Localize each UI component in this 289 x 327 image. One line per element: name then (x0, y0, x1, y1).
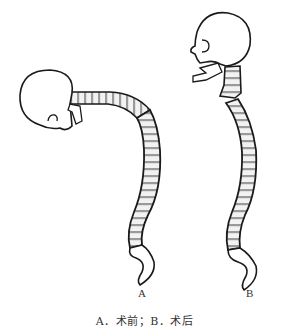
panel-label-b: B (246, 287, 253, 299)
jaw-b (193, 63, 222, 82)
sacrum-b (228, 248, 257, 290)
figure-caption: A．术前；B．术后 (0, 312, 289, 327)
skull-b (191, 13, 250, 82)
cervical-spine-b (220, 66, 241, 98)
thoracolumbar-spine-b (226, 99, 256, 250)
sacrum-a (130, 245, 155, 285)
thoracolumbar-spine-a (129, 110, 161, 248)
cervical-spine-a (70, 92, 150, 118)
spine-comparison-figure (0, 0, 289, 327)
panel-label-a: A (138, 287, 146, 299)
panel-a-spine-preop (20, 70, 160, 285)
panel-b-spine-postop (191, 13, 257, 290)
